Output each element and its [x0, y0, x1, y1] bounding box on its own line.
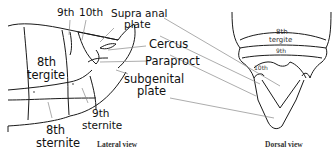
label-8th-sternite-1: 8th — [46, 124, 65, 136]
label-cercus: Cercus — [149, 38, 188, 50]
label-dorsal-tergite: tergite — [269, 37, 292, 44]
label-paraproct: Paraproct — [145, 55, 200, 67]
label-dorsal-10th: 10th — [254, 65, 268, 71]
label-8th-tergite-2: tergite — [27, 69, 65, 81]
label-8th-tergite-1: 8th — [37, 56, 56, 68]
label-subgenital-plate-2: plate — [137, 85, 166, 97]
caption-dorsal-view: Dorsal view — [265, 140, 303, 149]
label-9th-sternite-2: sternite — [82, 120, 122, 131]
caption-lateral-view: Lateral view — [97, 140, 137, 149]
label-9th: 9th — [57, 7, 74, 18]
label-8th-sternite-2: sternite — [36, 137, 80, 149]
label-supra-anal-plate-2: plate — [124, 19, 151, 30]
label-10th: 10th — [79, 7, 103, 18]
label-dorsal-9th: 9th — [276, 48, 286, 54]
label-9th-sternite-1: 9th — [92, 108, 109, 119]
